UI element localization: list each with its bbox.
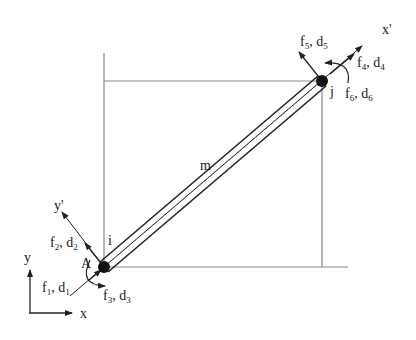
node-i-label: i <box>108 233 112 248</box>
diagram-svg: y x y' x' m i j A f1, d1 f2, d2 f3, d3 f… <box>0 0 416 340</box>
member-label: m <box>200 158 211 173</box>
dof-2-label: f2, d2 <box>50 235 78 252</box>
global-y-label: y <box>24 250 31 265</box>
node-j <box>316 75 328 87</box>
dof-1-label: f1, d1 <box>42 280 70 297</box>
dof-4-label: f4, d4 <box>357 55 385 72</box>
global-x-label: x <box>80 306 87 321</box>
f6-moment-arrow <box>325 63 349 83</box>
dof-5-label: f5, d5 <box>300 34 328 51</box>
point-a-label: A <box>81 256 92 271</box>
local-x-label: x' <box>382 22 392 37</box>
dof-3-label: f3, d3 <box>103 288 131 305</box>
f4-arrow <box>330 54 354 74</box>
frame-element-diagram: y x y' x' m i j A f1, d1 f2, d2 f3, d3 f… <box>0 0 416 340</box>
f1-arrow <box>88 270 101 281</box>
dof-6-label: f6, d6 <box>345 86 373 103</box>
node-i <box>98 261 110 273</box>
node-j-label: j <box>329 84 334 99</box>
local-y-label: y' <box>54 198 64 213</box>
